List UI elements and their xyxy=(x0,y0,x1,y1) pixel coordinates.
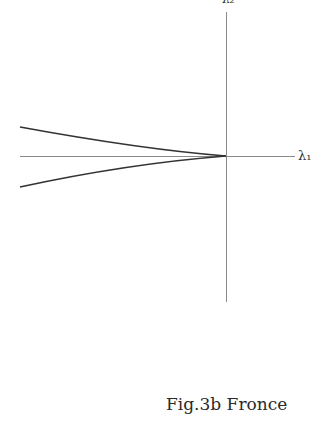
figure-caption: Fig.3b Fronce xyxy=(166,394,287,414)
y-axis-label: λ₂ xyxy=(222,0,234,5)
figure: λ₂ λ₁ Fig.3b Fronce xyxy=(0,0,330,425)
lower-curve xyxy=(20,156,226,187)
upper-curve xyxy=(20,127,226,156)
cusp-plot xyxy=(0,0,330,425)
x-axis-label: λ₁ xyxy=(298,149,311,162)
